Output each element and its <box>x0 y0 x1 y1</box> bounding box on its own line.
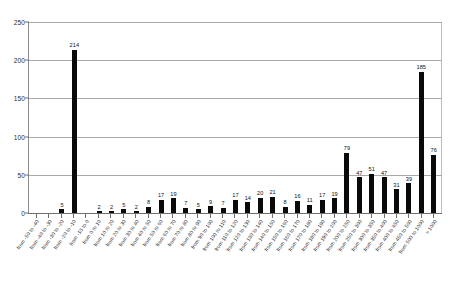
bar-slot[interactable]: 8 <box>143 22 155 213</box>
bar-value-label: 9 <box>209 200 212 206</box>
bar-value-label: 11 <box>307 198 313 204</box>
bar-slot[interactable]: 2 <box>105 22 117 213</box>
bar[interactable] <box>295 201 300 213</box>
bar[interactable] <box>320 200 325 213</box>
bar-series: 5214225281719759717142021816111719794751… <box>29 22 442 213</box>
bar-slot[interactable]: 17 <box>229 22 241 213</box>
bar[interactable] <box>221 208 226 213</box>
bar-value-label: 14 <box>245 196 251 202</box>
bar[interactable] <box>394 189 399 213</box>
bar[interactable] <box>121 209 126 213</box>
bar[interactable] <box>208 206 213 213</box>
bar-slot[interactable]: 2 <box>93 22 105 213</box>
bar[interactable] <box>159 200 164 213</box>
bar-value-label: 16 <box>294 194 300 200</box>
bar-slot[interactable]: 47 <box>353 22 365 213</box>
bar[interactable] <box>233 200 238 213</box>
bar[interactable] <box>97 211 102 213</box>
bar-slot[interactable]: 47 <box>378 22 390 213</box>
bar-slot[interactable]: 8 <box>279 22 291 213</box>
bar[interactable] <box>406 183 411 213</box>
bar[interactable] <box>183 208 188 213</box>
bar-value-label: 7 <box>184 201 187 207</box>
bar-slot[interactable]: 79 <box>341 22 353 213</box>
bar[interactable] <box>72 50 77 213</box>
bar[interactable] <box>258 198 263 213</box>
y-tick-label: 250 <box>14 19 25 26</box>
bar-value-label: 185 <box>417 65 426 71</box>
bar-value-label: 2 <box>110 205 113 211</box>
bar[interactable] <box>357 177 362 213</box>
bar[interactable] <box>270 197 275 213</box>
bar[interactable] <box>419 72 424 213</box>
bar-slot[interactable]: 16 <box>291 22 303 213</box>
y-tick-label: 100 <box>14 133 25 140</box>
bar-value-label: 5 <box>197 203 200 209</box>
y-tick-label: 200 <box>14 57 25 64</box>
bar[interactable] <box>369 174 374 213</box>
y-tick-label: 150 <box>14 95 25 102</box>
bar-slot[interactable]: 39 <box>403 22 415 213</box>
bar-slot[interactable]: 76 <box>428 22 440 213</box>
bar-slot[interactable]: 5 <box>192 22 204 213</box>
bar-slot[interactable]: 21 <box>266 22 278 213</box>
bar[interactable] <box>283 207 288 213</box>
bar-value-label: 47 <box>356 171 362 177</box>
bar-value-label: 79 <box>344 146 350 152</box>
bar-slot[interactable]: 7 <box>217 22 229 213</box>
bar-value-label: 2 <box>135 205 138 211</box>
bar-slot[interactable]: 7 <box>180 22 192 213</box>
plot-area: 050100150200250 521422528171975971714202… <box>28 22 442 214</box>
bar[interactable] <box>171 198 176 213</box>
bar-slot[interactable] <box>31 22 43 213</box>
bar[interactable] <box>59 209 64 213</box>
bar-value-label: 5 <box>60 203 63 209</box>
bar-chart: 050100150200250 521422528171975971714202… <box>0 0 450 281</box>
bar-slot[interactable]: 14 <box>242 22 254 213</box>
bar-value-label: 21 <box>269 190 275 196</box>
bar[interactable] <box>134 211 139 213</box>
bar-value-label: 2 <box>98 205 101 211</box>
y-tick-label: 50 <box>18 171 25 178</box>
bar-slot[interactable] <box>43 22 55 213</box>
bar-slot[interactable]: 31 <box>390 22 402 213</box>
bar-slot[interactable] <box>81 22 93 213</box>
bar-slot[interactable]: 17 <box>316 22 328 213</box>
bar-value-label: 8 <box>147 200 150 206</box>
bar-slot[interactable]: 5 <box>56 22 68 213</box>
bar-value-label: 7 <box>221 201 224 207</box>
bar[interactable] <box>344 153 349 213</box>
bar[interactable] <box>196 209 201 213</box>
bar[interactable] <box>431 155 436 213</box>
bar-value-label: 51 <box>369 167 375 173</box>
bar-slot[interactable]: 17 <box>155 22 167 213</box>
bar[interactable] <box>245 202 250 213</box>
bar-value-label: 19 <box>170 192 176 198</box>
bar-slot[interactable]: 19 <box>328 22 340 213</box>
bar-slot[interactable]: 11 <box>304 22 316 213</box>
bar-slot[interactable]: 19 <box>167 22 179 213</box>
x-axis-labels: from -50 to -40from -40 to -30from -30 t… <box>28 218 442 280</box>
bar-value-label: 39 <box>406 177 412 183</box>
bar-value-label: 31 <box>393 183 399 189</box>
bar-value-label: 5 <box>122 203 125 209</box>
bar-value-label: 76 <box>431 148 437 154</box>
bar[interactable] <box>109 211 114 213</box>
bar-slot[interactable]: 214 <box>68 22 80 213</box>
bar[interactable] <box>146 207 151 213</box>
y-tick-label: 0 <box>21 210 25 217</box>
bar-slot[interactable]: 2 <box>130 22 142 213</box>
x-label-slot: > 1000 <box>428 218 440 280</box>
bar-value-label: 20 <box>257 191 263 197</box>
bar[interactable] <box>382 177 387 213</box>
bar-slot[interactable]: 5 <box>118 22 130 213</box>
bar[interactable] <box>307 205 312 213</box>
bar[interactable] <box>332 198 337 213</box>
bar-value-label: 19 <box>331 192 337 198</box>
bar-slot[interactable]: 185 <box>415 22 427 213</box>
bar-value-label: 47 <box>381 171 387 177</box>
bar-value-label: 8 <box>283 200 286 206</box>
bar-slot[interactable]: 20 <box>254 22 266 213</box>
bar-slot[interactable]: 9 <box>204 22 216 213</box>
bar-slot[interactable]: 51 <box>366 22 378 213</box>
